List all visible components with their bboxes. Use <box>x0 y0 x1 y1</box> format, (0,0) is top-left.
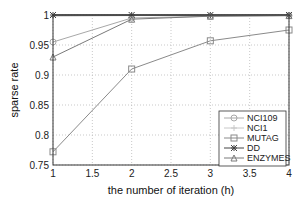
legend: NCI109NCI1MUTAGDDENZYMES <box>219 111 291 166</box>
legend-item-enzymes: ENZYMES <box>224 153 291 163</box>
x-tick-label: 2 <box>129 168 135 179</box>
line-chart: 11.522.533.54 0.750.80.850.90.951 the nu… <box>0 0 306 202</box>
legend-label: MUTAG <box>247 133 279 143</box>
x-tick-label: 1 <box>50 168 56 179</box>
x-tick-label: 1.5 <box>85 168 99 179</box>
y-tick-label: 1 <box>43 10 49 21</box>
legend-label: NCI1 <box>247 123 268 133</box>
legend-label: DD <box>247 143 260 153</box>
legend-item-mutag: MUTAG <box>224 133 279 143</box>
x-tick-label: 3.5 <box>243 168 257 179</box>
y-tick-label: 0.95 <box>30 40 50 51</box>
x-axis-ticks: 11.522.533.54 <box>50 168 292 179</box>
y-tick-label: 0.85 <box>30 100 50 111</box>
x-tick-label: 3 <box>208 168 214 179</box>
y-tick-label: 0.75 <box>30 160 50 171</box>
x-tick-label: 4 <box>286 168 292 179</box>
legend-label: NCI109 <box>247 113 278 123</box>
y-axis-ticks: 0.750.80.850.90.951 <box>30 10 50 171</box>
legend-label: ENZYMES <box>247 153 291 163</box>
x-tick-label: 2.5 <box>164 168 178 179</box>
x-axis-label: the number of iteration (h) <box>108 184 235 196</box>
y-axis-label: sparse rate <box>8 62 20 117</box>
y-tick-label: 0.9 <box>35 70 49 81</box>
y-tick-label: 0.8 <box>35 130 49 141</box>
